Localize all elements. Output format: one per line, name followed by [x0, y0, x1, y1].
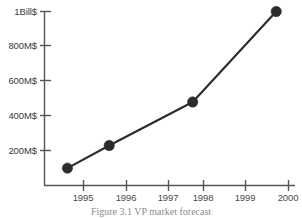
data-point	[104, 140, 114, 150]
y-tick-label: 800M$	[8, 40, 37, 51]
data-point	[271, 6, 281, 16]
x-axis-labels: 1995 1996 1997 1998 1999 2000	[73, 192, 299, 203]
x-tick-label: 1995	[73, 192, 94, 203]
data-point	[188, 97, 198, 107]
y-tick-label: 200M$	[8, 145, 37, 156]
series-line	[67, 12, 276, 169]
x-tick-label: 2000	[278, 192, 299, 203]
x-tick-label: 1997	[158, 192, 179, 203]
x-tick-label: 1996	[116, 192, 137, 203]
figure-caption: Figure 3.1 VP market forecast	[0, 206, 302, 217]
x-tick-label: 1999	[235, 192, 256, 203]
y-tick-label: 400M$	[8, 110, 37, 121]
y-axis-ticks	[40, 12, 51, 151]
series-markers	[62, 6, 281, 173]
figure-container: 1Bill$ 800M$ 600M$ 400M$ 200M$ 1995 1996…	[0, 0, 302, 218]
line-chart: 1Bill$ 800M$ 600M$ 400M$ 200M$ 1995 1996…	[0, 0, 302, 218]
y-tick-label: 1Bill$	[14, 6, 37, 17]
y-tick-label: 600M$	[8, 75, 37, 86]
data-point	[62, 163, 72, 173]
x-tick-label: 1998	[193, 192, 214, 203]
y-axis-labels: 1Bill$ 800M$ 600M$ 400M$ 200M$	[8, 6, 37, 156]
